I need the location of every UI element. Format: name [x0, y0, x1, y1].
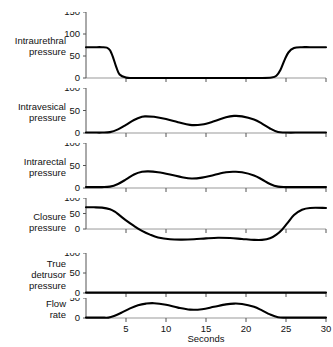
y-tick-label: 150 [64, 12, 80, 17]
y-tick-label: 0 [75, 72, 80, 83]
panel-label-line: pressure [0, 112, 66, 123]
y-tick-label: 50 [69, 160, 80, 171]
panel-label-line: detrusor [0, 269, 66, 280]
y-tick-label: 100 [64, 88, 80, 93]
panel-label-line: Intravesical [0, 101, 66, 112]
panel-label-line: Intraurethral [0, 35, 66, 46]
y-tick-label: 50 [69, 208, 80, 219]
panel-label-line: Closure [0, 211, 66, 222]
y-tick-label: 100 [64, 143, 80, 148]
y-tick-label: 0 [75, 127, 80, 138]
y-tick-label: 100 [64, 198, 80, 203]
data-trace [86, 116, 326, 133]
y-tick-label: 100 [64, 253, 80, 258]
panel-label-line: Intrarectal [0, 156, 66, 167]
panel-label: Flowrate [0, 298, 66, 320]
panel-label-line: pressure [0, 280, 66, 291]
data-trace [86, 47, 326, 78]
y-tick-label: 0 [75, 312, 80, 323]
data-trace [86, 171, 326, 187]
panel-label: Closurepressure [0, 211, 66, 233]
panel-label: Intraurethralpressure [0, 35, 66, 57]
panel-label-line: Flow [0, 298, 66, 309]
data-trace [86, 207, 326, 240]
y-tick-label: 0 [75, 182, 80, 193]
panel-label-line: pressure [0, 167, 66, 178]
y-tick-label: 50 [69, 298, 80, 303]
y-tick-label: 50 [69, 105, 80, 116]
panel-label: Truedetrusorpressure [0, 258, 66, 291]
panel-label: Intravesicalpressure [0, 101, 66, 123]
y-tick-label: 0 [75, 223, 80, 234]
panel-label-line: pressure [0, 222, 66, 233]
y-tick-label: 50 [69, 267, 80, 278]
y-tick-label: 100 [64, 28, 80, 39]
y-tick-label: 50 [69, 50, 80, 61]
data-trace [86, 303, 326, 318]
panel-label-line: pressure [0, 46, 66, 57]
panel-label-line: rate [0, 309, 66, 320]
panel-label: Intrarectalpressure [0, 156, 66, 178]
panel-label-line: True [0, 258, 66, 269]
x-axis-title: Seconds [40, 333, 333, 344]
urodynamics-chart: Intraurethralpressure050100150Intravesic… [0, 0, 333, 347]
y-tick-label: 0 [75, 287, 80, 298]
